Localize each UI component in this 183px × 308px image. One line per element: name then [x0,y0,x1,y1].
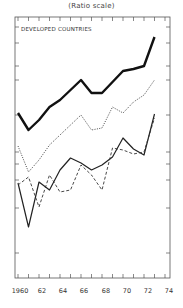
data-series [18,37,155,227]
x-tick-label: 64 [59,287,67,295]
x-tick-label: 70 [123,287,131,295]
x-tick-label: 72 [144,287,152,295]
series-line-1 [18,37,155,130]
x-tick-label: 68 [102,287,110,295]
x-tick-label: 66 [80,287,88,295]
x-tick-label: 62 [38,287,46,295]
region-label: DEVELOPED COUNTRIES [21,26,92,32]
series-line-4 [18,118,155,207]
x-axis-labels: 196062646668707274 [12,287,173,295]
series-line-2 [18,80,155,172]
series-line-3 [18,114,155,227]
x-tick-label: 1960 [12,287,29,295]
x-tick-label: 74 [165,287,173,295]
line-chart: DEVELOPED COUNTRIES 196062646668707274 [0,0,183,308]
